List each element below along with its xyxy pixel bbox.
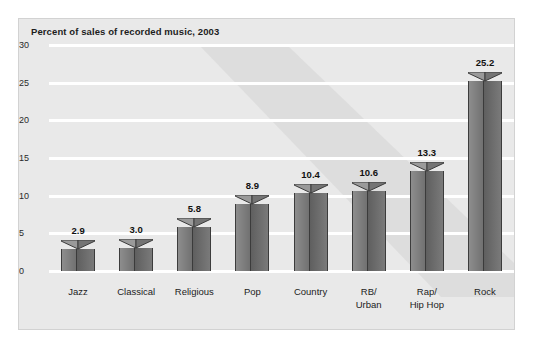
bar-body [294,193,328,271]
bar-right-face [76,249,95,271]
bar-body [177,227,211,271]
bar-right-face [192,227,211,271]
bar-body [61,249,95,271]
y-tick-label-25: 25 [19,78,45,88]
y-tick-label-0: 0 [19,266,45,276]
bar-value-label: 25.2 [462,57,508,68]
chart-frame: Percent of sales of recorded music, 2003… [18,18,515,330]
x-label-rock: Rock [449,286,515,299]
bar-value-label: 10.4 [288,169,334,180]
bar-body [119,248,153,271]
bar-top-chevron [410,162,444,172]
y-tick-label-30: 30 [19,40,45,50]
bar-right-face [483,81,502,271]
plot-area: 051015202530 2.93.05.88.910.410.613.325.… [49,45,514,271]
bar-value-label: 5.8 [171,203,217,214]
bar-top-chevron [294,184,328,194]
bar-classical: 3.0 [119,248,153,271]
bar-top-chevron [61,240,95,250]
bar-right-face [309,193,328,271]
bar-religious: 5.8 [177,227,211,271]
bar-value-label: 3.0 [113,224,159,235]
gridline-30 [49,44,515,47]
gridline-10 [49,195,515,198]
bar-value-label: 13.3 [404,147,450,158]
bar-top-chevron [177,218,211,228]
y-tick-label-10: 10 [19,191,45,201]
chart-title: Percent of sales of recorded music, 2003 [31,26,219,37]
bar-value-label: 8.9 [229,180,275,191]
bar-top-chevron [119,239,153,249]
bar-right-face [134,248,153,271]
bar-body [352,191,386,271]
bar-pop: 8.9 [235,204,269,271]
x-label-line: Rock [449,286,515,299]
y-tick-label-5: 5 [19,228,45,238]
bar-body [410,171,444,271]
y-tick-label-20: 20 [19,115,45,125]
bar-rb-urban: 10.6 [352,191,386,271]
bar-right-face [367,191,386,271]
bar-right-face [250,204,269,271]
bar-value-label: 2.9 [55,225,101,236]
y-tick-label-15: 15 [19,153,45,163]
bar-rock: 25.2 [468,81,502,271]
bar-right-face [425,171,444,271]
gridline-20 [49,119,515,122]
bar-value-label: 10.6 [346,167,392,178]
chart-screenshot: Percent of sales of recorded music, 2003… [0,0,533,348]
bar-country: 10.4 [294,193,328,271]
bar-top-chevron [468,72,502,82]
bar-body [235,204,269,271]
x-label-line: Hip Hop [391,299,463,312]
bar-rap-hip-hop: 13.3 [410,171,444,271]
bar-top-chevron [352,182,386,192]
bar-body [468,81,502,271]
bar-top-chevron [235,195,269,205]
gridline-25 [49,82,515,85]
bar-jazz: 2.9 [61,249,95,271]
